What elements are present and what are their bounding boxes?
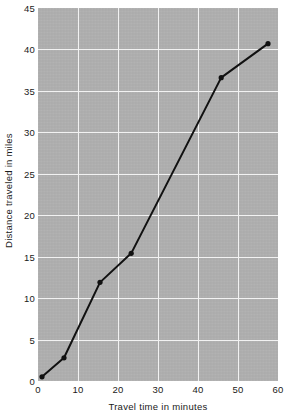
data-point-marker [61,355,66,360]
y-axis-tick-label: 0 [1,376,35,387]
y-axis-tick-label: 20 [1,210,35,221]
data-point-marker [39,374,44,379]
series-line [42,44,268,377]
series-markers [39,41,270,379]
data-point-marker [129,251,134,256]
x-axis-tick-labels: 0102030405060 [0,384,289,400]
y-axis-tick-label: 40 [1,44,35,55]
y-axis-tick-labels: 051015202530354045 [0,0,35,419]
data-point-marker [219,75,224,80]
x-axis-title: Travel time in minutes [38,401,278,412]
plot-area [38,8,278,381]
y-axis-tick-label: 25 [1,168,35,179]
y-axis-tick-label: 10 [1,293,35,304]
x-axis-tick-label: 40 [178,384,218,395]
x-axis-tick-label: 60 [258,384,289,395]
x-axis-tick-label: 0 [18,384,58,395]
x-axis-tick-label: 30 [138,384,178,395]
data-point-marker [97,280,102,285]
y-axis-tick-label: 15 [1,251,35,262]
x-axis-tick-label: 50 [218,384,258,395]
y-axis-title-text: Distance traveled in miles [3,133,14,248]
x-axis-tick-label: 20 [98,384,138,395]
x-axis-tick-label: 10 [58,384,98,395]
y-axis-title: Distance traveled in miles [0,0,16,381]
data-series-svg [38,8,278,381]
line-chart: Distance traveled in miles 0510152025303… [0,0,289,419]
y-axis-tick-label: 30 [1,127,35,138]
y-axis-tick-label: 45 [1,3,35,14]
y-axis-tick-label: 5 [1,334,35,345]
y-axis-tick-label: 35 [1,85,35,96]
data-point-marker [265,41,270,46]
